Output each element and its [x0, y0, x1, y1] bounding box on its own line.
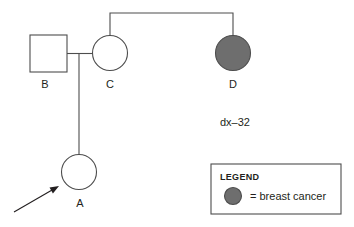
proband-arrow-head: [50, 186, 59, 193]
legend-entry-label: = breast cancer: [250, 190, 326, 202]
circle-symbol-female-unaffected[interactable]: [93, 36, 128, 71]
individual-label-a: A: [76, 197, 84, 209]
proband-arrow: [14, 186, 59, 212]
individual-b[interactable]: B: [30, 35, 67, 90]
sibship-line: [110, 13, 233, 36]
proband-arrow-shaft: [14, 190, 53, 212]
legend-title: LEGEND: [220, 172, 260, 182]
legend-filled-circle-icon: [225, 188, 242, 205]
individual-label-b: B: [41, 78, 48, 90]
individual-c[interactable]: C: [93, 36, 128, 91]
pedigree-diagram-canvas: B C D A dx–32 LEGEND = breast c: [0, 0, 354, 227]
square-symbol-male-unaffected[interactable]: [30, 35, 67, 72]
individual-label-c: C: [106, 78, 114, 90]
diagnosis-age-annotation: dx–32: [220, 116, 250, 128]
circle-symbol-female-proband[interactable]: [62, 155, 97, 190]
circle-symbol-female-affected[interactable]: [216, 36, 251, 71]
individual-d[interactable]: D: [216, 36, 251, 91]
connection-lines: [67, 13, 233, 155]
individual-label-d: D: [229, 78, 237, 90]
legend-panel: LEGEND = breast cancer: [211, 164, 341, 214]
individual-a[interactable]: A: [62, 155, 97, 210]
pedigree-svg: B C D A dx–32 LEGEND = breast c: [0, 0, 354, 227]
